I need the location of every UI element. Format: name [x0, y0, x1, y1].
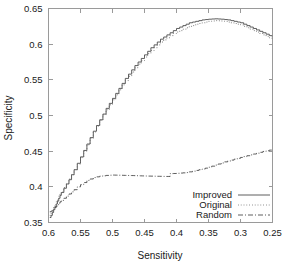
x-tick-label: 0.5: [106, 227, 119, 238]
x-tick-label: 0.35: [199, 227, 218, 238]
y-tick-label: 0.5: [29, 110, 42, 121]
x-tick-label: 0.55: [71, 227, 90, 238]
x-tick-label: 0.6: [42, 227, 55, 238]
x-axis-title: Sensitivity: [137, 250, 182, 261]
chart-figure: 0.350.40.450.50.550.60.65 0.60.550.50.45…: [0, 0, 288, 267]
y-tick-label: 0.6: [29, 39, 42, 50]
y-axis-title: Specificity: [3, 95, 14, 140]
y-tick-label: 0.35: [24, 217, 43, 228]
y-tick-label: 0.4: [29, 181, 42, 192]
roc-plot-svg: 0.350.40.450.50.550.60.65 0.60.550.50.45…: [0, 0, 288, 267]
x-tick-label: 0.3: [234, 227, 247, 238]
y-tick-label: 0.65: [24, 3, 43, 14]
legend-label-random: Random: [196, 209, 232, 220]
y-tick-label: 0.45: [24, 146, 43, 157]
x-tick-label: 0.45: [135, 227, 154, 238]
x-tick-label: 0.25: [263, 227, 282, 238]
y-tick-label: 0.55: [24, 74, 43, 85]
x-tick-label: 0.4: [170, 227, 183, 238]
